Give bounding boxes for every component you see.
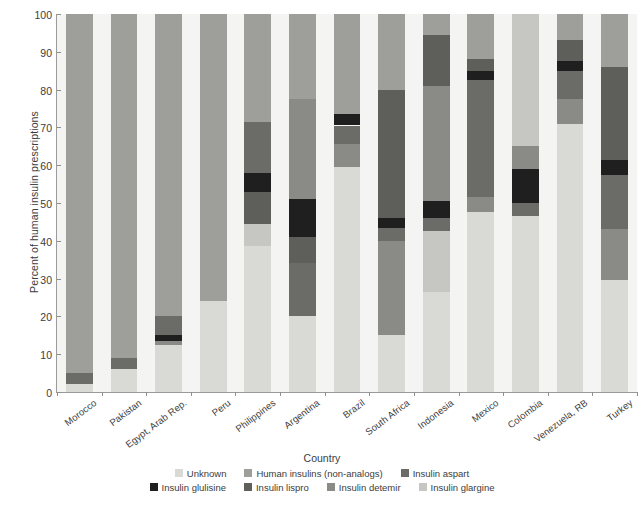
bar-peru[interactable] xyxy=(200,14,227,392)
bar-segment[interactable] xyxy=(155,345,182,392)
bar-segment[interactable] xyxy=(155,341,182,345)
plot-area: 0102030405060708090100 xyxy=(56,14,637,393)
bar-segment[interactable] xyxy=(66,384,93,392)
bar-morocco[interactable] xyxy=(66,14,93,392)
bar-segment[interactable] xyxy=(334,144,361,167)
legend-item-insulin-aspart[interactable]: Insulin aspart xyxy=(401,468,470,479)
bar-segment[interactable] xyxy=(244,122,271,173)
bar-segment[interactable] xyxy=(423,35,450,86)
bar-venezuela-rb[interactable] xyxy=(557,14,584,392)
bar-segment[interactable] xyxy=(467,80,494,197)
bar-segment[interactable] xyxy=(378,218,405,227)
legend-item-human-insulins-non-analogs[interactable]: Human insulins (non-analogs) xyxy=(244,468,382,479)
bar-segment[interactable] xyxy=(423,14,450,35)
legend-label: Insulin aspart xyxy=(413,468,470,479)
y-tick-mark xyxy=(57,203,61,204)
y-tick-label: 90 xyxy=(40,47,57,59)
bar-mexico[interactable] xyxy=(467,14,494,392)
bar-segment[interactable] xyxy=(601,175,628,230)
y-tick-mark xyxy=(57,316,61,317)
y-tick-mark xyxy=(57,165,61,166)
bar-segment[interactable] xyxy=(244,173,271,192)
y-tick-60: 60 xyxy=(40,156,57,174)
bar-segment[interactable] xyxy=(200,301,227,392)
bar-segment[interactable] xyxy=(467,59,494,70)
bar-segment[interactable] xyxy=(557,71,584,99)
x-tick-label: Indonesia xyxy=(416,397,456,431)
bar-segment[interactable] xyxy=(378,14,405,90)
bar-segment[interactable] xyxy=(111,358,138,369)
bar-segment[interactable] xyxy=(423,201,450,218)
bar-segment[interactable] xyxy=(66,14,93,373)
bar-colombia[interactable] xyxy=(512,14,539,392)
bar-segment[interactable] xyxy=(334,167,361,392)
bar-egypt-arab-rep[interactable] xyxy=(155,14,182,392)
bar-segment[interactable] xyxy=(244,14,271,122)
bar-argentina[interactable] xyxy=(289,14,316,392)
bar-segment[interactable] xyxy=(467,212,494,392)
bar-segment[interactable] xyxy=(601,160,628,175)
bar-segment[interactable] xyxy=(289,263,316,316)
bar-segment[interactable] xyxy=(378,241,405,336)
bar-segment[interactable] xyxy=(244,246,271,392)
bar-segment[interactable] xyxy=(289,199,316,237)
bar-segment[interactable] xyxy=(378,228,405,241)
bar-segment[interactable] xyxy=(423,218,450,231)
bar-segment[interactable] xyxy=(111,369,138,392)
bar-segment[interactable] xyxy=(601,67,628,160)
bar-segment[interactable] xyxy=(601,229,628,280)
bar-segment[interactable] xyxy=(557,14,584,40)
bar-indonesia[interactable] xyxy=(423,14,450,392)
bar-segment[interactable] xyxy=(334,114,361,125)
legend-item-unknown[interactable]: Unknown xyxy=(175,468,227,479)
bar-segment[interactable] xyxy=(111,14,138,358)
bar-segment[interactable] xyxy=(467,14,494,59)
bar-segment[interactable] xyxy=(155,316,182,335)
bar-segment[interactable] xyxy=(378,335,405,392)
legend-item-insulin-glulisine[interactable]: Insulin glulisine xyxy=(150,482,226,493)
legend-item-insulin-glargine[interactable]: Insulin glargine xyxy=(419,482,495,493)
bar-segment[interactable] xyxy=(155,14,182,316)
bar-segment[interactable] xyxy=(512,169,539,203)
bar-segment[interactable] xyxy=(244,192,271,224)
y-tick-label: 30 xyxy=(40,274,57,286)
legend-item-insulin-lispro[interactable]: Insulin lispro xyxy=(244,482,309,493)
bar-segment[interactable] xyxy=(423,86,450,201)
legend-item-insulin-detemir[interactable]: Insulin detemir xyxy=(327,482,401,493)
bar-segment[interactable] xyxy=(557,61,584,70)
bar-pakistan[interactable] xyxy=(111,14,138,392)
bar-segment[interactable] xyxy=(512,216,539,392)
bar-segment[interactable] xyxy=(200,14,227,301)
x-tick-mark xyxy=(280,392,281,396)
bar-segment[interactable] xyxy=(423,292,450,392)
bar-segment[interactable] xyxy=(601,280,628,392)
bar-segment[interactable] xyxy=(66,373,93,384)
bar-segment[interactable] xyxy=(467,71,494,80)
bar-segment[interactable] xyxy=(289,14,316,99)
bar-segment[interactable] xyxy=(289,237,316,263)
legend-swatch xyxy=(150,483,158,491)
bar-segment[interactable] xyxy=(557,124,584,392)
x-tick-label: Mexico xyxy=(469,397,500,424)
legend-label: Insulin lispro xyxy=(256,482,309,493)
bar-segment[interactable] xyxy=(557,99,584,124)
bar-segment[interactable] xyxy=(557,40,584,61)
bar-segment[interactable] xyxy=(512,14,539,146)
bar-segment[interactable] xyxy=(289,316,316,392)
bar-segment[interactable] xyxy=(378,90,405,219)
bar-segment[interactable] xyxy=(512,203,539,216)
bar-segment[interactable] xyxy=(334,126,361,145)
bar-turkey[interactable] xyxy=(601,14,628,392)
bar-segment[interactable] xyxy=(244,224,271,247)
legend-swatch xyxy=(419,483,427,491)
bar-south-africa[interactable] xyxy=(378,14,405,392)
bar-segment[interactable] xyxy=(289,99,316,199)
bar-segment[interactable] xyxy=(155,335,182,341)
bar-segment[interactable] xyxy=(512,146,539,169)
bar-brazil[interactable] xyxy=(334,14,361,392)
bar-segment[interactable] xyxy=(601,14,628,67)
bar-segment[interactable] xyxy=(467,197,494,212)
bar-segment[interactable] xyxy=(423,231,450,291)
bar-philippines[interactable] xyxy=(244,14,271,392)
bar-segment[interactable] xyxy=(334,14,361,114)
